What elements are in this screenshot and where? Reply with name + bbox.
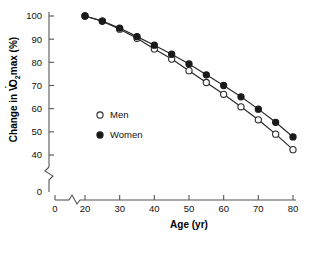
data-point-women-80 xyxy=(290,134,296,140)
data-point-women-50 xyxy=(186,61,192,67)
data-point-women-60 xyxy=(221,82,227,88)
y-axis-break-icon xyxy=(45,167,53,192)
y-tick-label: 90 xyxy=(31,34,42,45)
data-point-men-55 xyxy=(203,79,209,85)
y-tick-label: 60 xyxy=(31,103,42,114)
data-point-women-20 xyxy=(82,13,88,19)
data-point-men-80 xyxy=(290,147,296,153)
x-tick-label: 50 xyxy=(184,203,195,214)
x-tick-label: 80 xyxy=(288,203,299,214)
data-point-men-70 xyxy=(255,117,261,123)
data-point-women-55 xyxy=(203,72,209,78)
y-tick-label: 0 xyxy=(37,186,42,197)
data-point-men-65 xyxy=(238,104,244,110)
data-point-men-60 xyxy=(221,91,227,97)
y-title-post: max (%) xyxy=(8,37,19,75)
x-axis-title: Age (yr) xyxy=(170,219,208,230)
y-title-pre: Change in V xyxy=(8,84,19,142)
legend-label-men: Men xyxy=(110,109,128,120)
legend-marker-women xyxy=(97,132,103,138)
data-point-women-70 xyxy=(255,106,261,112)
y-axis-title-text: Change in V˙O2max (%) xyxy=(4,37,21,142)
legend-label-women: Women xyxy=(110,129,143,140)
data-point-women-65 xyxy=(238,94,244,100)
x-tick-label: 60 xyxy=(218,203,229,214)
data-point-women-30 xyxy=(117,25,123,31)
y-tick-label: 70 xyxy=(31,80,42,91)
data-point-women-35 xyxy=(134,34,140,40)
data-point-men-50 xyxy=(186,68,192,74)
y-tick-label: 100 xyxy=(26,10,42,21)
y-tick-label: 40 xyxy=(31,149,42,160)
chart-container: 0405060708090100020304050607080Age (yr)C… xyxy=(0,0,311,253)
data-point-women-40 xyxy=(151,42,157,48)
x-tick-label: 0 xyxy=(52,203,57,214)
y-tick-label: 80 xyxy=(31,57,42,68)
data-point-women-45 xyxy=(169,51,175,57)
x-tick-label: 20 xyxy=(80,203,91,214)
data-point-men-75 xyxy=(273,131,279,137)
legend-marker-men xyxy=(97,112,103,118)
data-point-women-25 xyxy=(99,18,105,24)
y-tick-label: 50 xyxy=(31,126,42,137)
data-point-women-75 xyxy=(273,119,279,125)
y-axis-title: Change in V˙O2max (%) xyxy=(4,37,21,142)
x-tick-label: 70 xyxy=(253,203,264,214)
x-tick-label: 40 xyxy=(149,203,160,214)
x-tick-label: 30 xyxy=(114,203,125,214)
vo2max-decline-line-chart: 0405060708090100020304050607080Age (yr)C… xyxy=(0,0,311,253)
